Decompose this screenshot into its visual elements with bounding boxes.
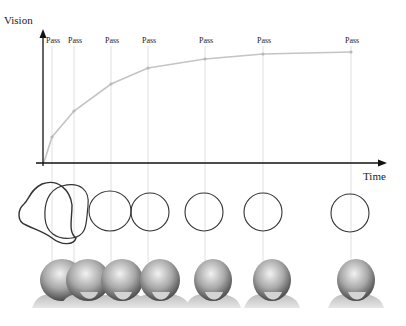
pass-label-2: Pass (68, 36, 82, 45)
bust-image-4 (132, 259, 190, 308)
shape-blob-rough-circle (45, 185, 88, 239)
x-axis-arrow-icon (378, 160, 387, 167)
shape-near-circle (131, 193, 169, 231)
y-axis-arrow-icon (40, 29, 47, 38)
data-point (349, 50, 352, 53)
data-point (72, 109, 75, 112)
vision-time-diagram: Vision Time Pass Pass Pass Pass Pass Pas… (0, 0, 406, 326)
vision-curve (44, 52, 351, 162)
axes (36, 29, 387, 167)
shape-row (19, 182, 369, 243)
data-point (146, 66, 149, 69)
pass-label-6: Pass (257, 36, 271, 45)
bust-image-6 (244, 259, 300, 308)
bust-row (32, 259, 384, 308)
pass-label-7: Pass (345, 36, 359, 45)
shape-circle-7 (331, 194, 369, 232)
shape-circle-5 (185, 193, 223, 231)
data-point (261, 52, 264, 55)
y-axis-label: Vision (4, 14, 33, 26)
pass-guide-lines (52, 46, 351, 262)
data-point (203, 57, 206, 60)
pass-label-1: Pass (46, 36, 60, 45)
pass-label-5: Pass (199, 36, 213, 45)
shape-rough-circle (89, 191, 131, 231)
pass-label-4: Pass (142, 36, 156, 45)
bust-image-7 (328, 259, 384, 308)
shape-blob-irregular (19, 182, 76, 243)
data-point (109, 82, 112, 85)
bust-image-5 (185, 259, 241, 308)
pass-label-3: Pass (105, 36, 119, 45)
pass-labels: Pass Pass Pass Pass Pass Pass Pass (46, 36, 359, 45)
data-point (50, 135, 53, 138)
x-axis-label: Time (363, 170, 386, 182)
